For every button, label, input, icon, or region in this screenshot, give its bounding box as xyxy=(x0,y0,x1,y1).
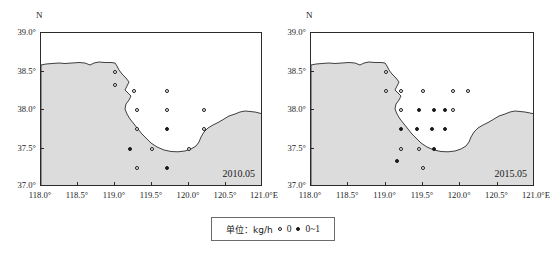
station-marker-filled[interactable] xyxy=(432,108,436,112)
station-marker-open[interactable] xyxy=(399,147,403,151)
ytick-label: 39.0° xyxy=(0,28,36,37)
station-marker-open[interactable] xyxy=(135,166,139,170)
station-marker-open[interactable] xyxy=(132,89,136,93)
map-panel-2010: N 2010.05 xyxy=(0,0,272,210)
station-marker-open[interactable] xyxy=(384,70,388,74)
station-marker-filled[interactable] xyxy=(399,127,403,131)
ytick-label: 37.0° xyxy=(0,181,36,190)
station-marker-open[interactable] xyxy=(399,108,403,112)
station-marker-filled[interactable] xyxy=(430,127,434,131)
station-marker-open[interactable] xyxy=(165,108,169,112)
ytick-label: 38.0° xyxy=(272,105,306,114)
ytick-label: 38.5° xyxy=(272,67,306,76)
station-marker-filled[interactable] xyxy=(415,127,419,131)
panel-date-stamp-2015: 2015.05 xyxy=(495,168,528,179)
ytick-label: 37.5° xyxy=(272,144,306,153)
ytick-label: 38.5° xyxy=(0,67,36,76)
legend-filled-value: 0~1 xyxy=(305,224,320,234)
station-marker-open[interactable] xyxy=(421,89,425,93)
ytick-label: 39.0° xyxy=(272,28,306,37)
open-circle-icon xyxy=(278,227,282,231)
coastline-map-2015 xyxy=(311,33,534,186)
station-marker-open[interactable] xyxy=(113,70,117,74)
station-marker-filled[interactable] xyxy=(165,166,169,170)
station-marker-open[interactable] xyxy=(135,108,139,112)
station-marker-open[interactable] xyxy=(165,89,169,93)
station-marker-filled[interactable] xyxy=(165,127,169,131)
ytick-label: 38.0° xyxy=(0,105,36,114)
station-marker-filled[interactable] xyxy=(417,108,421,112)
map-panel-2015: N 2015.0 xyxy=(272,0,544,210)
station-marker-open[interactable] xyxy=(451,108,455,112)
filled-circle-icon xyxy=(296,227,300,231)
station-marker-filled[interactable] xyxy=(443,127,447,131)
ytick-label: 37.0° xyxy=(272,181,306,190)
latitude-axis-n-label: N xyxy=(36,11,43,20)
coastline-map-2010 xyxy=(41,33,262,186)
legend-unit-label: 单位：kg/h xyxy=(226,223,273,236)
panel-date-stamp-2010: 2010.05 xyxy=(223,168,256,179)
station-marker-open[interactable] xyxy=(399,89,403,93)
legend: 单位：kg/h 0 0~1 xyxy=(211,217,335,241)
latitude-axis-n-label: N xyxy=(306,11,313,20)
xtick-label: 121.0°E xyxy=(510,191,555,200)
station-marker-filled[interactable] xyxy=(443,108,447,112)
station-marker-open[interactable] xyxy=(466,89,470,93)
ytick-label: 37.5° xyxy=(0,144,36,153)
legend-open-value: 0 xyxy=(287,224,292,234)
station-marker-open[interactable] xyxy=(417,147,421,151)
station-marker-open[interactable] xyxy=(187,147,191,151)
station-marker-filled[interactable] xyxy=(128,147,132,151)
station-marker-filled[interactable] xyxy=(432,147,436,151)
station-marker-open[interactable] xyxy=(421,166,425,170)
station-marker-open[interactable] xyxy=(202,127,206,131)
station-marker-open[interactable] xyxy=(384,89,388,93)
station-marker-open[interactable] xyxy=(202,108,206,112)
station-marker-filled[interactable] xyxy=(395,159,399,163)
plot-frame-2010: 2010.05 xyxy=(40,32,262,186)
station-marker-open[interactable] xyxy=(150,147,154,151)
station-marker-open[interactable] xyxy=(135,127,139,131)
plot-frame-2015: 2015.05 xyxy=(310,32,534,186)
station-marker-open[interactable] xyxy=(451,89,455,93)
station-marker-open[interactable] xyxy=(113,83,117,87)
